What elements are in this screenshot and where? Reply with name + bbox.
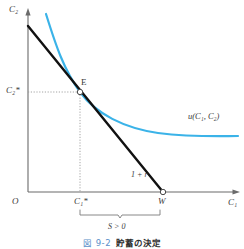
saving-brace xyxy=(80,210,160,218)
indifference-curve-label: u(C₁, C₂) xyxy=(188,112,219,121)
x-axis-arrow xyxy=(233,189,241,194)
equilibrium-point-label: E xyxy=(81,78,87,87)
equilibrium-point-marker xyxy=(77,89,82,94)
x-tick-label-c1-star: C₁* xyxy=(74,197,88,206)
figure-caption-number: 図 9-2 xyxy=(83,238,111,248)
axis-group xyxy=(25,8,240,195)
figure-caption-text: 貯蓄の決定 xyxy=(116,238,161,248)
guide-line-group xyxy=(28,92,80,192)
budget-slope-label: 1 + r xyxy=(131,171,148,179)
saving-annotation-label: S > 0 xyxy=(108,223,125,231)
figure-canvas xyxy=(0,0,244,249)
y-axis-arrow xyxy=(25,8,30,16)
endowment-point-marker xyxy=(160,189,165,194)
y-axis-label: C₂ xyxy=(9,5,18,14)
origin-label: O xyxy=(12,197,19,206)
endowment-label-w: W xyxy=(158,197,166,206)
y-tick-label-c2-star: C₂* xyxy=(6,86,20,95)
savings-decision-figure: C₂ C₁ O C₂* C₁* W E u(C₁, C₂) 1 + r S > … xyxy=(0,0,244,249)
x-axis-label: C₁ xyxy=(228,198,237,207)
figure-caption: 図 9-2貯蓄の決定 xyxy=(0,236,244,248)
budget-constraint-line xyxy=(28,26,163,192)
